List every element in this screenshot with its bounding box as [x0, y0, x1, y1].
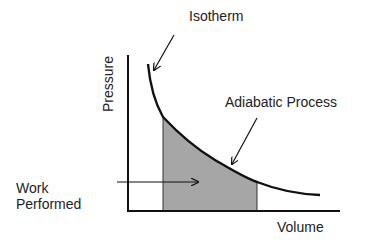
work-label-line2: Performed: [16, 196, 81, 212]
x-axis-label: Volume: [277, 220, 324, 234]
adiabatic-arrow: [232, 118, 257, 164]
y-axis-label: Pressure: [101, 56, 115, 112]
pv-diagram: Isotherm Adiabatic Process Work Performe…: [0, 0, 367, 244]
isotherm-arrow: [154, 35, 174, 70]
isotherm-label: Isotherm: [189, 9, 243, 23]
work-label-line1: Work: [16, 180, 81, 196]
work-performed-label: Work Performed: [16, 180, 81, 212]
adiabatic-process-label: Adiabatic Process: [225, 95, 337, 109]
